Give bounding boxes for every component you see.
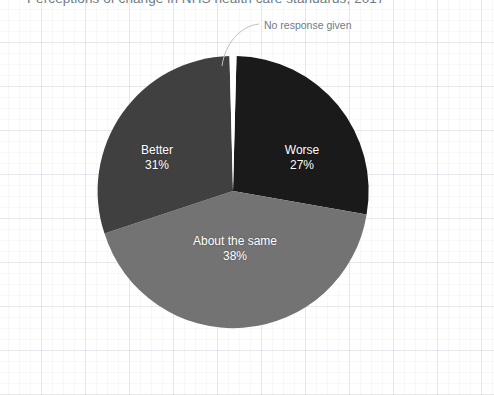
pie-label-better: Better 31% [107, 143, 207, 173]
pie-label-worse-value: 27% [252, 158, 352, 173]
chart-canvas: Perceptions of change in NHS health care… [0, 0, 494, 395]
pie-label-worse: Worse 27% [252, 143, 352, 173]
pie-label-better-value: 31% [107, 158, 207, 173]
pie-chart [0, 0, 494, 395]
callout-label-no-response-given: No response given [264, 19, 352, 32]
pie-label-worse-name: Worse [285, 143, 319, 157]
pie-label-about-the-same: About the same 38% [155, 234, 315, 264]
pie-slice-worse[interactable] [233, 56, 369, 215]
pie-label-better-name: Better [141, 143, 173, 157]
pie-label-about-the-same-value: 38% [155, 249, 315, 264]
pie-label-about-the-same-name: About the same [193, 234, 277, 248]
